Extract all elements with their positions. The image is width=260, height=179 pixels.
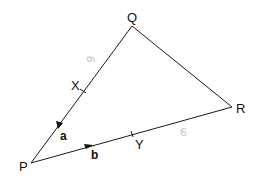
triangle-diagram: Q R P X Y a b 9 6 [0, 0, 260, 179]
faint-annotation-9: 9 [84, 55, 98, 64]
faint-annotation-6: 6 [180, 126, 187, 139]
label-Y: Y [135, 137, 144, 152]
label-vector-a: a [60, 129, 67, 143]
label-P: P [19, 159, 28, 174]
label-Q: Q [127, 10, 137, 25]
label-vector-b: b [91, 148, 98, 162]
side-PQ [31, 26, 132, 163]
tick-Y [131, 131, 133, 137]
label-X: X [71, 78, 80, 93]
side-QR [132, 26, 232, 107]
label-R: R [236, 101, 245, 116]
